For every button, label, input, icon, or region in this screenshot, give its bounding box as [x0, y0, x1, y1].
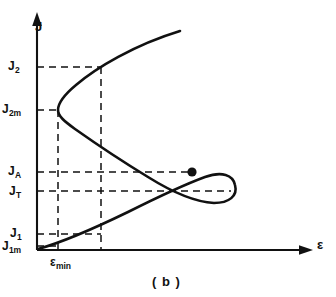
y-tick-base-j1: J [10, 226, 17, 240]
x-tick-sub-eps-min: min [56, 261, 71, 271]
y-tick-base-j2m: J [2, 102, 9, 116]
y-tick-label-j1m: J1m [2, 240, 21, 252]
y-tick-sub-jt: T [16, 190, 21, 200]
y-tick-base-j2: J [8, 59, 15, 73]
y-tick-label-j2: J2 [8, 60, 20, 72]
axes-group [32, 12, 313, 255]
x-axis-label: ε [317, 238, 323, 251]
y-tick-base-jt: J [9, 184, 16, 198]
y-tick-label-jt: JT [9, 185, 21, 197]
figure-container: J ε J2 J2m JA JT J1 J1m εmin ( b ) [0, 0, 336, 297]
plot-canvas [0, 0, 336, 297]
operating-point-marker[interactable] [187, 167, 196, 176]
y-axis-label: J [35, 20, 42, 33]
y-tick-base-j1m: J [2, 239, 9, 253]
y-tick-label-j2m: J2m [2, 103, 21, 115]
figure-caption: ( b ) [152, 275, 181, 288]
y-tick-sub-j2m: 2m [9, 108, 21, 118]
x-axis-arrow-icon [299, 245, 313, 255]
y-tick-label-j1: J1 [10, 227, 22, 239]
y-tick-label-ja: JA [8, 165, 21, 177]
x-tick-label-eps-min: εmin [50, 256, 71, 268]
y-tick-base-ja: J [8, 164, 15, 178]
y-tick-sub-j1m: 1m [9, 245, 21, 255]
y-tick-sub-ja: A [15, 170, 21, 180]
bistability-curve [38, 31, 236, 249]
y-tick-sub-j2: 2 [15, 65, 20, 75]
